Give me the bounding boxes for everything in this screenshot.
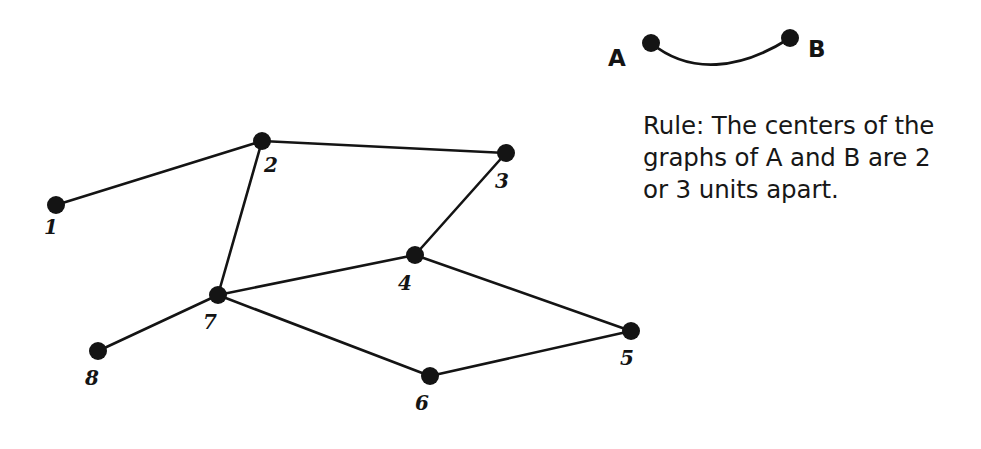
graph-node-1 — [47, 196, 65, 214]
rule-text: Rule: The centers of the graphs of A and… — [643, 110, 963, 206]
graph-node-5 — [622, 322, 640, 340]
graph-edge-1-2 — [56, 141, 262, 205]
graph-node-labels-group: 12345678 — [44, 153, 634, 415]
graph-node-6 — [421, 367, 439, 385]
ab-curve-group — [642, 29, 799, 65]
graph-node-3 — [497, 144, 515, 162]
graph-diagram-svg: 12345678 — [0, 0, 981, 449]
graph-node-label-5: 5 — [620, 346, 634, 370]
graph-node-label-2: 2 — [263, 153, 278, 177]
graph-node-8 — [89, 342, 107, 360]
graph-node-2 — [253, 132, 271, 150]
graph-edge-5-6 — [430, 331, 631, 376]
graph-edge-7-8 — [98, 295, 218, 351]
graph-edge-2-3 — [262, 141, 506, 153]
curve-endpoint-dot-a — [642, 34, 660, 52]
graph-node-label-7: 7 — [203, 310, 217, 334]
graph-edge-4-7 — [218, 255, 415, 295]
curve-endpoint-label-b: B — [808, 36, 826, 62]
graph-node-label-6: 6 — [415, 391, 429, 415]
curve-endpoint-dot-b — [781, 29, 799, 47]
graph-node-4 — [406, 246, 424, 264]
ab-curve — [651, 38, 790, 65]
graph-edge-6-7 — [218, 295, 430, 376]
graph-nodes-group — [47, 132, 640, 385]
graph-edge-4-5 — [415, 255, 631, 331]
graph-node-label-1: 1 — [44, 215, 58, 239]
graph-edges-group — [56, 141, 631, 376]
graph-node-label-3: 3 — [495, 169, 509, 193]
graph-edge-3-4 — [415, 153, 506, 255]
graph-edge-2-7 — [218, 141, 262, 295]
graph-node-7 — [209, 286, 227, 304]
graph-node-label-4: 4 — [398, 271, 412, 295]
curve-endpoint-label-a: A — [608, 45, 626, 71]
graph-node-label-8: 8 — [84, 366, 99, 390]
